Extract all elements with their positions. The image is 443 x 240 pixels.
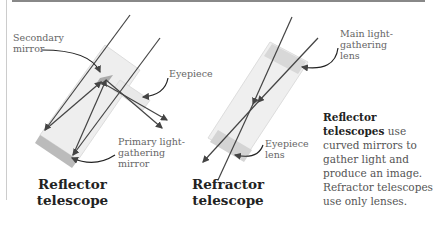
reflector-title: Reflector telescope bbox=[35, 176, 110, 208]
main-lens-pointer bbox=[302, 48, 338, 68]
description-bold: Reflector telescopes bbox=[323, 111, 384, 137]
primary-mirror-label: Primary light-gathering mirror bbox=[118, 136, 198, 169]
eyepiece-pointer bbox=[143, 78, 168, 97]
eyepiece-label: Eyepiece bbox=[169, 68, 213, 79]
eyepiece-lens-label: Eyepiece lens bbox=[265, 138, 305, 160]
main-lens-label: Main light-gathering lens bbox=[340, 28, 408, 61]
description-body: use curved mirrors to gather light and p… bbox=[323, 125, 433, 207]
secondary-mirror-label: Secondary mirror bbox=[13, 32, 83, 54]
refractor-title: Refractor telescope bbox=[188, 176, 268, 208]
description-text: Reflector telescopes use curved mirrors … bbox=[323, 110, 441, 208]
